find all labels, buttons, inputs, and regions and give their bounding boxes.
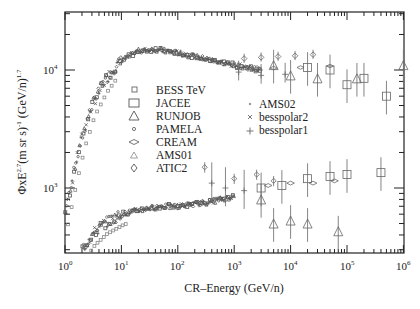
x-axis-title: CR–Energy (GeV/n) [184,281,283,295]
legend-item-besspolar2: besspolar2 [248,111,308,124]
legend-item-cream: CREAM [129,136,197,148]
svg-text:RUNJOB: RUNJOB [156,110,201,122]
y-tick-labels: 104 103 [43,63,58,194]
legend-item-pamela: PAMELA [132,123,203,135]
flat-diamond-marker-icon [129,140,139,145]
svg-text:BESS TeV: BESS TeV [156,84,206,96]
x-tick-label: 105 [340,259,355,272]
small-circle-marker-icon [132,127,135,130]
cosmic-ray-spectrum-chart: 100 101 102 103 104 105 106 104 103 CR–E… [0,0,420,309]
x-marker-icon [248,115,252,119]
x-tick-label: 103 [227,259,242,272]
small-square-marker-icon [132,87,137,92]
legend: BESS TeV JACEE RUNJOB PAMELA CREAM AMS01… [129,84,308,174]
y-tick-label: 104 [43,63,58,76]
legend-item-ams02: AMS02 [249,98,296,110]
x-tick-label: 102 [170,259,185,272]
svg-text:besspolar2: besspolar2 [259,111,308,124]
legend-item-runjob: RUNJOB [129,110,201,122]
x-tick-label: 106 [396,259,411,272]
legend-item-atic2: ATIC2 [131,162,188,174]
x-tick-label: 100 [58,259,73,272]
svg-text:JACEE: JACEE [156,97,191,109]
y-tick-label: 103 [43,181,58,194]
x-tick-label: 104 [283,259,298,272]
svg-text:ATIC2: ATIC2 [156,162,188,174]
diamond-marker-icon [131,164,137,172]
legend-item-bess-tev: BESS TeV [132,84,206,96]
svg-text:AMS02: AMS02 [259,98,296,110]
large-triangle-marker-icon [129,111,139,120]
svg-text:PAMELA: PAMELA [156,123,203,135]
large-square-marker-icon [129,99,139,107]
plus-marker-icon [247,128,254,135]
svg-text:besspolar1: besspolar1 [259,124,308,137]
legend-item-jacee: JACEE [129,97,191,109]
legend-item-ams01: AMS01 [131,149,193,161]
x-tick-label: 101 [114,259,129,272]
legend-item-besspolar1: besspolar1 [247,124,309,137]
x-tick-labels: 100 101 102 103 104 105 106 [58,259,411,272]
small-triangle-marker-icon [131,152,138,158]
dot-marker-icon [249,103,251,105]
data-points [64,46,408,252]
svg-text:AMS01: AMS01 [156,149,193,161]
y-axis-title: ΦxE2.7(m sr s)-1 (GeV/n)1.7 [15,69,29,195]
svg-text:CREAM: CREAM [156,136,197,148]
